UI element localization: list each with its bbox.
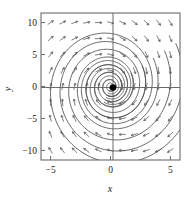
y-tick-label: −10 — [22, 146, 37, 156]
y-axis-title: y — [2, 86, 13, 92]
y-tick-label: 10 — [28, 18, 38, 28]
y-tick-label: 5 — [32, 50, 37, 60]
x-tick-label: −5 — [46, 165, 56, 175]
x-tick-label: 0 — [108, 165, 113, 175]
y-tick-label: 0 — [32, 82, 37, 92]
fixed-point-marker — [110, 84, 117, 91]
plot-canvas: −505 1050−5−10 x y — [0, 0, 196, 200]
phase-portrait-figure: −505 1050−5−10 x y — [0, 0, 196, 200]
x-tick-label: 5 — [168, 165, 173, 175]
y-tick-label: −5 — [27, 114, 37, 124]
x-axis-title: x — [107, 183, 113, 194]
